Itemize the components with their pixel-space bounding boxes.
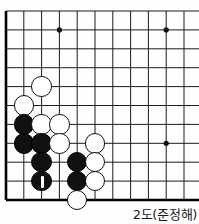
go-stone-white bbox=[49, 133, 70, 154]
go-stone-black bbox=[31, 152, 52, 173]
go-stone-white bbox=[85, 133, 106, 154]
go-stone-white bbox=[67, 190, 88, 211]
go-stone-white bbox=[14, 95, 35, 116]
move-number-marker bbox=[41, 176, 44, 189]
star-point bbox=[164, 141, 169, 146]
star-point bbox=[57, 27, 62, 32]
diagram-caption: 2도(준정해) bbox=[133, 204, 197, 223]
go-stone-white bbox=[49, 114, 70, 135]
star-point bbox=[164, 27, 169, 32]
go-stone-black bbox=[31, 171, 52, 192]
go-stone-white bbox=[31, 76, 52, 97]
go-diagram-figure: 2도(준정해) bbox=[0, 0, 199, 224]
